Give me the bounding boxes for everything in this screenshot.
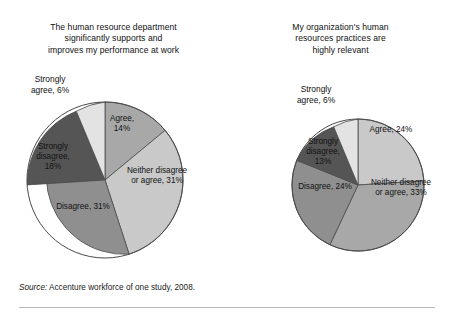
- chart-title-right-line3: highly relevant: [241, 45, 440, 56]
- chart-title-left: The human resource department significan…: [0, 22, 227, 56]
- chart-title-right-line1: My organization's human: [241, 22, 440, 33]
- pie-left-svg: [25, 100, 185, 260]
- chart-title-right-line2: resources practices are: [241, 33, 440, 44]
- pie-right-slice-agree[interactable]: [358, 119, 424, 185]
- pie-left-label-strongly-agree: Strongly agree, 6%: [8, 74, 92, 95]
- pie-right-label-strongly-agree: Strongly agree, 6%: [278, 84, 354, 105]
- source-prefix: Source:: [19, 283, 47, 292]
- footer-divider: [19, 307, 435, 308]
- pie-right-label-strongly-agree-line1: Strongly: [278, 84, 354, 95]
- chart-title-left-line2: significantly supports and: [14, 33, 213, 44]
- pie-left-label-strongly-agree-line1: Strongly: [8, 74, 92, 85]
- source-text: Accenture workforce of one study, 2008.: [49, 283, 195, 292]
- pie-right-label-strongly-agree-line2: agree, 6%: [278, 95, 354, 106]
- chart-title-left-line1: The human resource department: [14, 22, 213, 33]
- source-note: Source: Accenture workforce of one study…: [19, 283, 195, 292]
- chart-panel-hr-practices-relevant: My organization's human resources practi…: [227, 0, 454, 272]
- pie-chart-left: [25, 100, 185, 260]
- pie-right-svg: [290, 117, 426, 253]
- chart-title-left-line3: improves my performance at work: [14, 45, 213, 56]
- chart-title-right: My organization's human resources practi…: [227, 22, 454, 56]
- pie-chart-right: [290, 117, 426, 253]
- pie-left-label-strongly-agree-line2: agree, 6%: [8, 85, 92, 96]
- chart-panel-hr-department-support: The human resource department significan…: [0, 0, 227, 272]
- figure-two-pie-charts: The human resource department significan…: [0, 0, 454, 322]
